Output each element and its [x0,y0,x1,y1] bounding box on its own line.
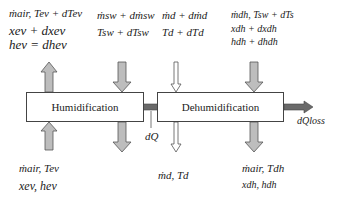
dq-label: dQ [145,131,158,142]
evaporator-air-in-label-2: xev + dxev [9,24,65,37]
dehum-air-in-label-2: xdh + dxdh [231,24,277,34]
seawater-out-down-arrow [113,122,131,152]
dehumidification-box: Dehumidification [157,92,284,122]
distillate-out-label: ṁd, Td [158,170,189,181]
dehum-air-in-down-arrow [245,62,263,92]
dehum-air-out-down-arrow [245,122,263,152]
seawater-in-label-2: Tsw + dTsw [97,27,149,38]
air-out-up-arrow [41,62,57,92]
dehum-air-in-label-3: hdh + dhdh [231,37,278,47]
distillate-in-label-2: Td + dTd [162,27,204,38]
distillate-out-down-arrow [171,122,181,152]
evaporator-air-out-label-2: xev, hev [19,180,57,192]
heat-loss-arrow [284,101,313,113]
dehum-air-out-label-2: xdh, hdh [242,180,276,190]
distillate-in-label-1: ṁd + dṁd [162,10,207,21]
dq-loss-label: dQloss [297,116,325,126]
humidification-label: Humidification [51,101,118,113]
evaporator-air-in-label-1: ṁair, Tev + dTev [9,8,82,19]
distillate-in-down-arrow [171,62,181,92]
evaporator-air-out-label-1: ṁair, Tev [19,163,59,174]
dehumidification-label: Dehumidification [182,101,260,113]
seawater-in-down-arrow [113,62,131,92]
air-in-up-arrow [41,122,57,150]
humidification-box: Humidification [26,92,144,122]
dehum-air-out-label-1: ṁair, Tdh [242,163,284,174]
seawater-in-label-1: ṁsw + dṁsw [97,10,155,21]
evaporator-air-in-label-3: hev = dhev [9,38,67,51]
dehum-air-in-label-1: ṁdh, Tsw + dTs [231,10,294,20]
